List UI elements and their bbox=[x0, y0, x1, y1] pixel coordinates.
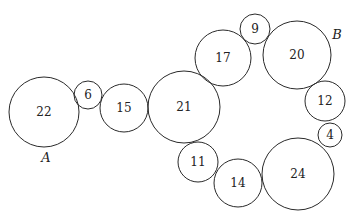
circle-6: 6 bbox=[74, 81, 102, 109]
circle-9: 9 bbox=[240, 14, 270, 44]
circle-15: 15 bbox=[100, 84, 148, 132]
circle-label: 21 bbox=[176, 100, 191, 114]
circle-label: 24 bbox=[290, 167, 306, 181]
circle-label: 15 bbox=[116, 101, 131, 115]
circle-17: 17 bbox=[195, 30, 251, 86]
circle-label: 11 bbox=[190, 155, 205, 169]
circle-14: 14 bbox=[214, 159, 262, 207]
point-label-a: A bbox=[40, 150, 50, 165]
circle-20: 20 bbox=[263, 21, 331, 89]
circle-24: 24 bbox=[262, 138, 334, 210]
circle-label: 14 bbox=[230, 176, 246, 190]
circle-label: 12 bbox=[317, 94, 332, 108]
circle-4: 4 bbox=[318, 123, 342, 147]
circle-11: 11 bbox=[178, 142, 218, 182]
circle-label: 20 bbox=[289, 48, 304, 62]
circle-label: 9 bbox=[251, 22, 259, 36]
circle-label: 17 bbox=[215, 51, 230, 65]
circle-label: 4 bbox=[326, 128, 334, 142]
circle-22: 22 bbox=[9, 77, 79, 147]
circle-label: 22 bbox=[36, 105, 51, 119]
circle-12: 12 bbox=[305, 81, 345, 121]
circle-chain-diagram: 226152117920124241411AB bbox=[0, 0, 359, 223]
point-label-b: B bbox=[331, 27, 342, 42]
circle-label: 6 bbox=[84, 88, 92, 102]
